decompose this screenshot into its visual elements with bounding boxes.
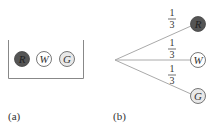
- ball-r: R: [15, 52, 30, 67]
- ball-g: G: [60, 52, 75, 67]
- panel-b-label: (b): [113, 110, 126, 122]
- tree-branches: [115, 26, 191, 94]
- probability-diagram: R W G 1 3 1 3 1 3 R W G: [0, 0, 219, 132]
- svg-text:3: 3: [170, 19, 175, 30]
- fraction-1: 1 3: [168, 7, 176, 30]
- svg-text:1: 1: [170, 37, 175, 48]
- fraction-3: 1 3: [168, 63, 176, 86]
- svg-text:1: 1: [170, 7, 175, 18]
- svg-text:R: R: [194, 18, 202, 30]
- fraction-2: 1 3: [168, 37, 176, 60]
- leaf-g: G: [191, 89, 206, 104]
- svg-text:W: W: [39, 53, 49, 65]
- svg-text:3: 3: [170, 75, 175, 86]
- ball-w: W: [37, 52, 52, 67]
- svg-text:1: 1: [170, 63, 175, 74]
- leaf-w: W: [191, 53, 206, 68]
- svg-text:W: W: [193, 54, 203, 66]
- svg-text:3: 3: [170, 49, 175, 60]
- svg-text:R: R: [18, 53, 26, 65]
- leaf-r: R: [191, 17, 206, 32]
- panel-a-label: (a): [8, 110, 20, 122]
- svg-text:G: G: [63, 53, 71, 65]
- svg-text:G: G: [194, 90, 202, 102]
